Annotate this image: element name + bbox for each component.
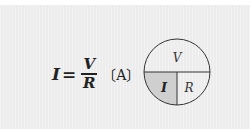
- formula-unit: 〔A〕: [102, 64, 140, 84]
- label-r: R: [183, 81, 193, 95]
- formula-equals: =: [62, 64, 76, 84]
- label-v: V: [173, 51, 183, 65]
- label-i: I: [160, 80, 168, 95]
- formula-numerator: V: [82, 57, 96, 73]
- formula-denominator: R: [83, 75, 95, 91]
- vir-circle-diagram: V I R: [143, 38, 211, 110]
- formula-fraction: V R: [81, 57, 97, 91]
- ohms-law-formula: I = V R 〔A〕: [52, 57, 140, 91]
- diagram-panel: I = V R 〔A〕 V I R: [0, 5, 250, 129]
- formula-lhs: I: [52, 64, 60, 84]
